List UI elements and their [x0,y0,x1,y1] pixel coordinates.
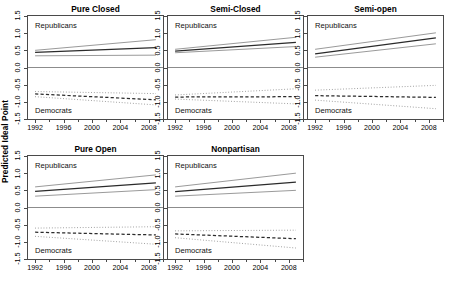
x-tick-minor [106,120,107,122]
x-tick-minor [443,120,444,122]
x-tick-label: 2004 [392,124,408,132]
x-tick-minor [415,120,416,122]
group-label-republicans: Republicans [315,21,357,30]
series-line [35,232,156,235]
x-tick-minor [218,120,219,122]
x-tick-minor [135,120,136,122]
plot-inner-nonpartisan: RepublicansDemocrats [168,156,303,259]
y-tick-label: -1.5 [291,114,303,124]
y-tick-label: 1.5 [153,11,163,21]
x-tick-minor [189,260,190,262]
x-tick-label: 2008 [281,264,297,272]
y-axis-semi-open: 1.51.00.50.0-0.5-1.0-1.5 [294,15,307,120]
x-tick-minor [163,120,164,122]
x-tick-label: 2000 [224,124,240,132]
panel-title-semi-closed: Semi-Closed [167,4,304,15]
y-tick-label: 1.5 [293,11,303,21]
x-tick-label: 1996 [56,124,72,132]
x-axis-semi-closed: 19921996200020042008 [167,120,304,134]
plot-inner-pure-open: RepublicansDemocrats [28,156,163,259]
x-tick-minor [386,120,387,122]
series-line [175,173,296,187]
x-tick-minor [163,260,164,262]
y-tick-label: -0.5 [11,220,23,230]
x-tick-minor [49,260,50,262]
y-tick-label: 1.0 [153,168,163,178]
y-tick-label: 0.5 [13,45,23,55]
series-line [315,96,436,98]
x-tick-label: 2004 [252,124,268,132]
series-line [175,190,296,196]
x-tick-minor [275,120,276,122]
y-tick-label: -1.5 [151,254,163,264]
y-tick-label: -0.5 [151,80,163,90]
plot-area-semi-closed: RepublicansDemocrats [167,15,304,120]
group-label-republicans: Republicans [35,21,77,30]
y-axis-pure-open: 1.51.00.50.0-0.5-1.0-1.5 [14,155,27,260]
series-line [175,182,296,192]
series-line [35,55,156,56]
y-tick-label: 0.5 [153,45,163,55]
x-tick-minor [358,120,359,122]
panel-semi-closed: Semi-Closed1.51.00.50.0-0.5-1.0-1.5Repub… [167,4,304,134]
group-label-democrats: Democrats [35,106,72,115]
x-tick-label: 1992 [27,264,43,272]
y-tick-label: 0.0 [13,203,23,213]
panel-title-pure-open: Pure Open [27,144,164,155]
x-tick-label: 2000 [224,264,240,272]
panel-nonpartisan: Nonpartisan1.51.00.50.0-0.5-1.0-1.5Repub… [167,144,304,274]
series-line [175,99,296,104]
y-axis-nonpartisan: 1.51.00.50.0-0.5-1.0-1.5 [154,155,167,260]
y-tick-label: -1.5 [11,114,23,124]
x-tick-label: 1996 [56,264,72,272]
group-label-republicans: Republicans [35,161,77,170]
y-tick-label: -1.5 [11,254,23,264]
x-axis-semi-open: 19921996200020042008 [307,120,444,134]
y-tick-label: 1.5 [153,151,163,161]
y-axis-semi-closed: 1.51.00.50.0-0.5-1.0-1.5 [154,15,167,120]
x-tick-minor [218,260,219,262]
series-line [35,183,156,192]
y-tick-label: 1.5 [13,151,23,161]
y-tick-label: -1.0 [151,97,163,107]
series-line [35,175,156,187]
panel-title-semi-open: Semi-open [307,4,444,15]
y-tick-label: 0.5 [153,185,163,195]
plot-inner-pure-closed: RepublicansDemocrats [28,16,163,119]
group-label-democrats: Democrats [35,246,72,255]
y-tick-label: 0.5 [13,185,23,195]
x-tick-label: 1996 [336,124,352,132]
series-line [35,94,156,100]
plot-area-pure-open: RepublicansDemocrats [27,155,164,260]
x-tick-minor [78,120,79,122]
series-line [315,85,436,90]
y-tick-label: 1.0 [153,28,163,38]
y-tick-label: -1.5 [151,114,163,124]
x-tick-label: 1992 [27,124,43,132]
x-tick-label: 1996 [196,264,212,272]
series-line [35,92,156,94]
y-tick-label: 0.0 [153,63,163,73]
series-line [35,236,156,244]
y-tick-label: 1.0 [13,28,23,38]
panel-title-nonpartisan: Nonpartisan [167,144,304,155]
y-tick-label: 0.0 [293,63,303,73]
y-tick-label: -0.5 [291,80,303,90]
series-line [175,234,296,239]
x-tick-label: 2004 [112,124,128,132]
x-tick-minor [329,120,330,122]
x-tick-minor [135,260,136,262]
x-tick-label: 2000 [364,124,380,132]
x-tick-label: 2004 [252,264,268,272]
panel-semi-open: Semi-open1.51.00.50.0-0.5-1.0-1.5Republi… [307,4,444,134]
x-tick-label: 1992 [167,124,183,132]
panel-pure-open: Pure Open1.51.00.50.0-0.5-1.0-1.5Republi… [27,144,164,274]
x-tick-minor [78,260,79,262]
series-line [35,97,156,105]
y-tick-label: -1.0 [291,97,303,107]
group-label-democrats: Democrats [175,246,212,255]
x-tick-minor [303,260,304,262]
y-tick-label: 0.0 [13,63,23,73]
x-tick-minor [189,120,190,122]
x-tick-minor [246,260,247,262]
